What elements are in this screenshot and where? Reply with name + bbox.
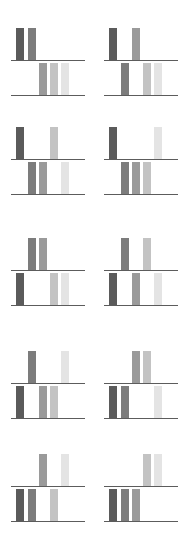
bar-slot-1 bbox=[109, 386, 117, 418]
bottom-group-row bbox=[104, 488, 178, 522]
baseline bbox=[11, 194, 85, 195]
top-group-row bbox=[11, 126, 85, 160]
bar-slot-2 bbox=[121, 63, 129, 95]
bar-slot-3 bbox=[132, 273, 140, 305]
bar-slot-2 bbox=[28, 162, 36, 194]
bar-slot-3 bbox=[132, 28, 140, 60]
bar-slot-4 bbox=[143, 162, 151, 194]
top-group-row bbox=[104, 27, 178, 61]
bar-slot-1 bbox=[109, 28, 117, 60]
bottom-group-row bbox=[11, 272, 85, 306]
bar-slot-2 bbox=[28, 351, 36, 383]
top-group-row bbox=[11, 350, 85, 384]
bar-slot-1 bbox=[16, 28, 24, 60]
baseline bbox=[11, 270, 85, 271]
baseline bbox=[104, 521, 178, 522]
bar-slot-1 bbox=[16, 127, 24, 159]
top-group-row bbox=[104, 453, 178, 487]
bar-slot-5 bbox=[154, 386, 162, 418]
baseline bbox=[11, 486, 85, 487]
baseline bbox=[104, 159, 178, 160]
bar-slot-1 bbox=[16, 273, 24, 305]
bar-slot-5 bbox=[61, 454, 69, 486]
bar-slot-3 bbox=[39, 63, 47, 95]
baseline bbox=[11, 95, 85, 96]
bar-slot-2 bbox=[121, 386, 129, 418]
bar-slot-4 bbox=[50, 63, 58, 95]
bar-slot-5 bbox=[154, 273, 162, 305]
baseline bbox=[11, 383, 85, 384]
bottom-group-row bbox=[11, 385, 85, 419]
baseline bbox=[104, 95, 178, 96]
top-group-row bbox=[104, 237, 178, 271]
bar-slot-3 bbox=[39, 386, 47, 418]
baseline bbox=[104, 270, 178, 271]
bar-slot-5 bbox=[61, 273, 69, 305]
bar-slot-2 bbox=[121, 238, 129, 270]
top-group-row bbox=[104, 126, 178, 160]
bottom-group-row bbox=[104, 161, 178, 195]
bar-slot-5 bbox=[154, 454, 162, 486]
baseline bbox=[104, 305, 178, 306]
bar-slot-3 bbox=[39, 238, 47, 270]
bottom-group-row bbox=[104, 385, 178, 419]
bar-slot-1 bbox=[109, 489, 117, 521]
baseline bbox=[104, 383, 178, 384]
bar-slot-2 bbox=[121, 489, 129, 521]
bar-slot-5 bbox=[154, 63, 162, 95]
bar-slot-3 bbox=[132, 351, 140, 383]
bar-slot-1 bbox=[16, 386, 24, 418]
bottom-group-row bbox=[104, 62, 178, 96]
bar-slot-5 bbox=[61, 351, 69, 383]
bar-slot-4 bbox=[50, 127, 58, 159]
bar-slot-2 bbox=[28, 28, 36, 60]
bar-slot-4 bbox=[50, 489, 58, 521]
bottom-group-row bbox=[11, 488, 85, 522]
baseline bbox=[104, 486, 178, 487]
baseline bbox=[11, 60, 85, 61]
bottom-group-row bbox=[11, 62, 85, 96]
baseline bbox=[11, 521, 85, 522]
bar-slot-2 bbox=[121, 162, 129, 194]
bottom-group-row bbox=[104, 272, 178, 306]
bar-slot-4 bbox=[143, 238, 151, 270]
bar-slot-1 bbox=[109, 273, 117, 305]
top-group-row bbox=[11, 237, 85, 271]
baseline bbox=[104, 60, 178, 61]
bar-slot-4 bbox=[143, 63, 151, 95]
bottom-group-row bbox=[11, 161, 85, 195]
top-group-row bbox=[104, 350, 178, 384]
bar-slot-3 bbox=[39, 454, 47, 486]
bar-slot-1 bbox=[109, 127, 117, 159]
baseline bbox=[11, 305, 85, 306]
bar-slot-5 bbox=[61, 63, 69, 95]
bar-slot-4 bbox=[50, 386, 58, 418]
baseline bbox=[11, 159, 85, 160]
bar-slot-2 bbox=[28, 238, 36, 270]
bar-slot-4 bbox=[50, 273, 58, 305]
baseline bbox=[11, 418, 85, 419]
bar-slot-4 bbox=[143, 454, 151, 486]
bar-slot-5 bbox=[154, 127, 162, 159]
top-group-row bbox=[11, 453, 85, 487]
bar-slot-2 bbox=[28, 489, 36, 521]
baseline bbox=[104, 418, 178, 419]
bar-slot-1 bbox=[16, 489, 24, 521]
top-group-row bbox=[11, 27, 85, 61]
bar-slot-3 bbox=[132, 162, 140, 194]
bar-slot-5 bbox=[61, 162, 69, 194]
bar-slot-3 bbox=[39, 162, 47, 194]
bar-slot-4 bbox=[143, 351, 151, 383]
bar-slot-3 bbox=[132, 489, 140, 521]
baseline bbox=[104, 194, 178, 195]
